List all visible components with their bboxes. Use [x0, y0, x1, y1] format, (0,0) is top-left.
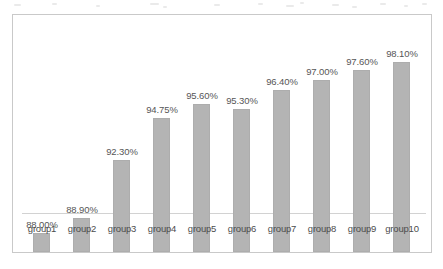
category-label: group9: [340, 223, 384, 234]
category-label: group2: [60, 223, 104, 234]
chart-frame: 88.00%88.90%92.30%94.75%95.60%95.30%96.4…: [12, 14, 432, 253]
category-label: group8: [300, 223, 344, 234]
category-label: group10: [380, 223, 424, 234]
category-label: group4: [140, 223, 184, 234]
scan-noise-artifacts: [0, 0, 443, 14]
category-label: group6: [220, 223, 264, 234]
bar-value-label: 98.10%: [373, 48, 431, 59]
category-axis-labels: group1group2group3group4group5group6grou…: [22, 223, 422, 245]
category-label: group3: [100, 223, 144, 234]
category-label: group7: [260, 223, 304, 234]
category-label: group5: [180, 223, 224, 234]
category-label: group1: [20, 223, 64, 234]
